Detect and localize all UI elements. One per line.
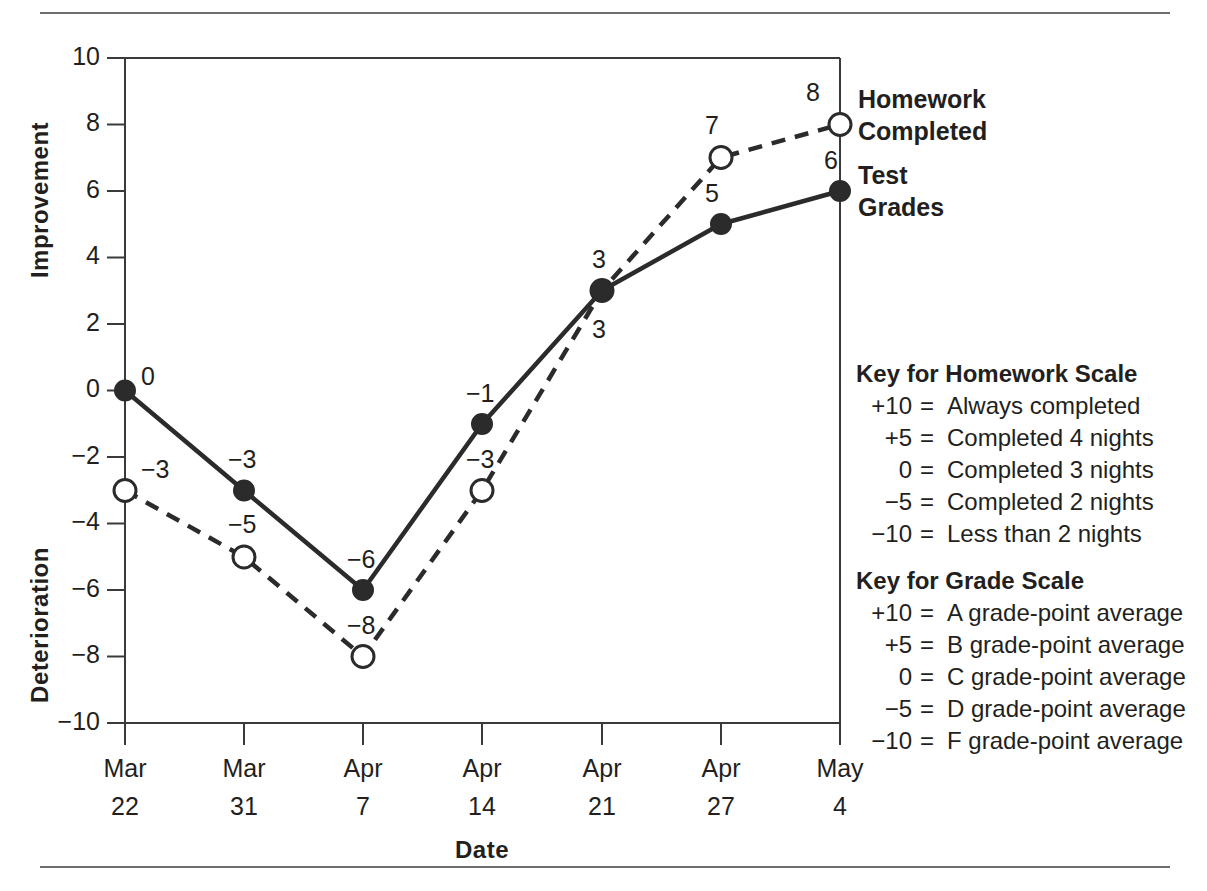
key-eq: = (920, 424, 934, 451)
data-label: −3 (141, 455, 170, 483)
x-tick-month: Apr (463, 754, 502, 782)
line-chart: 10 8 6 4 2 0 −2 −4 −6 −8 −10 Improvement… (0, 0, 1207, 891)
key-title: Key for Homework Scale (856, 360, 1137, 387)
key-homework-scale: Key for Homework Scale +10 = Always comp… (856, 360, 1154, 547)
data-label: 3 (592, 315, 606, 343)
y-tick-label: 2 (86, 308, 100, 336)
key-value: −5 (885, 488, 912, 515)
key-description: Always completed (947, 392, 1140, 419)
key-value: +5 (885, 631, 912, 658)
x-tick-day: 22 (111, 792, 139, 820)
key-description: Less than 2 nights (947, 520, 1142, 547)
y-axis-tick-labels: 10 8 6 4 2 0 −2 −4 −6 −8 −10 (58, 42, 101, 735)
key-description: D grade-point average (947, 695, 1186, 722)
series-label-line1: Test (858, 161, 908, 189)
key-eq: = (920, 727, 934, 754)
key-value: +5 (885, 424, 912, 451)
data-label: 5 (705, 179, 719, 207)
y-tick-label: 0 (86, 374, 100, 402)
data-label: −1 (466, 379, 495, 407)
key-value: +10 (871, 392, 912, 419)
x-tick-day: 7 (356, 792, 370, 820)
y-tick-label: 6 (86, 175, 100, 203)
series-label-homework-completed: Homework Completed (858, 85, 987, 145)
series-label-line1: Homework (858, 85, 986, 113)
key-value: −10 (871, 727, 912, 754)
data-label: 0 (141, 362, 155, 390)
x-tick-day: 31 (230, 792, 258, 820)
y-axis-title-improvement: Improvement (26, 122, 53, 278)
x-tick-day: 14 (468, 792, 496, 820)
y-tick-label: −2 (71, 441, 100, 469)
x-tick-month: Apr (702, 754, 741, 782)
key-eq: = (920, 695, 934, 722)
data-label: −3 (466, 445, 495, 473)
key-description: C grade-point average (947, 663, 1186, 690)
key-description: B grade-point average (947, 631, 1185, 658)
key-eq: = (920, 520, 934, 547)
key-value: −5 (885, 695, 912, 722)
x-tick-month: Mar (103, 754, 146, 782)
x-axis-title: Date (455, 836, 509, 863)
data-label: 8 (806, 78, 820, 106)
data-label: 6 (824, 146, 838, 174)
key-description: Completed 3 nights (947, 456, 1154, 483)
y-axis-title-deterioration: Deterioration (26, 547, 53, 703)
key-eq: = (920, 631, 934, 658)
data-label: −3 (228, 445, 257, 473)
x-tick-month: Mar (222, 754, 265, 782)
key-eq: = (920, 599, 934, 626)
key-value: 0 (899, 456, 912, 483)
figure-container: 10 8 6 4 2 0 −2 −4 −6 −8 −10 Improvement… (0, 0, 1207, 891)
key-description: A grade-point average (947, 599, 1183, 626)
key-value: +10 (871, 599, 912, 626)
key-description: Completed 4 nights (947, 424, 1154, 451)
y-tick-label: 8 (86, 108, 100, 136)
x-tick-month: Apr (344, 754, 383, 782)
key-value: 0 (899, 663, 912, 690)
x-tick-day: 4 (833, 792, 847, 820)
key-eq: = (920, 488, 934, 515)
data-label: −8 (347, 611, 376, 639)
x-tick-month: Apr (583, 754, 622, 782)
key-grade-scale: Key for Grade Scale +10 = A grade-point … (856, 567, 1186, 754)
y-tick-label: 4 (86, 241, 100, 269)
key-eq: = (920, 456, 934, 483)
data-label: 7 (705, 111, 719, 139)
x-axis-ticks (125, 723, 840, 745)
key-value: −10 (871, 520, 912, 547)
x-axis-tick-labels: Mar 22 Mar 31 Apr 7 Apr 14 Apr 21 Apr 27… (103, 754, 864, 820)
data-label: −6 (347, 545, 376, 573)
y-tick-label: −8 (71, 640, 100, 668)
series-label-line2: Completed (858, 117, 987, 145)
key-eq: = (920, 663, 934, 690)
key-title: Key for Grade Scale (856, 567, 1084, 594)
x-tick-day: 27 (707, 792, 735, 820)
series-label-line2: Grades (858, 193, 944, 221)
y-tick-label: −10 (58, 707, 100, 735)
y-tick-label: −4 (71, 507, 100, 535)
key-description: F grade-point average (947, 727, 1183, 754)
data-label: 3 (592, 245, 606, 273)
x-tick-month: May (816, 754, 864, 782)
y-tick-label: 10 (72, 42, 100, 70)
y-tick-label: −6 (71, 574, 100, 602)
key-eq: = (920, 392, 934, 419)
key-description: Completed 2 nights (947, 488, 1154, 515)
series-label-test-grades: Test Grades (858, 161, 944, 221)
data-label: −5 (228, 510, 257, 538)
data-labels-test-grades: 0 −3 −6 −1 3 5 6 (141, 146, 838, 573)
x-tick-day: 21 (588, 792, 616, 820)
